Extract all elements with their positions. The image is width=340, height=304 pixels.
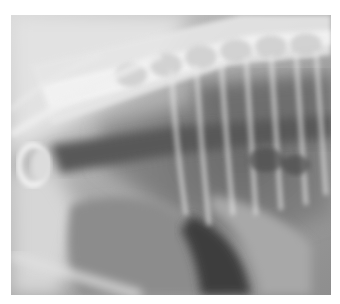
xray-image	[11, 15, 331, 295]
radiograph-render	[11, 15, 331, 295]
